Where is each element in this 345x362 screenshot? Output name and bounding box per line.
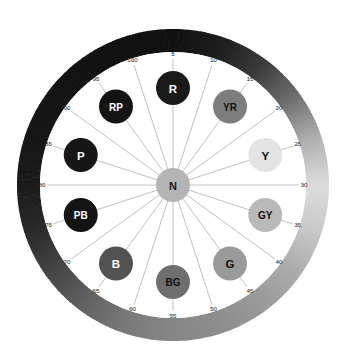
- hue-tick-label-75: 75: [45, 221, 52, 228]
- hue-node-bg[interactable]: BGBlue-Green: [156, 265, 190, 299]
- neutral-center-node: NNeutral: [156, 168, 190, 202]
- hue-node-yr[interactable]: YRYellow-Red: [213, 90, 247, 124]
- hue-tick-label-60: 60: [129, 305, 136, 312]
- hue-tick-label-65: 65: [93, 287, 100, 294]
- hue-tick-label-45: 45: [247, 287, 254, 294]
- hue-node-label-bg: BG: [166, 277, 181, 288]
- hue-node-label-p: P: [77, 150, 85, 162]
- hue-node-label-rp: RP: [109, 102, 123, 113]
- center-node-n[interactable]: NNeutral: [156, 168, 190, 202]
- hue-node-label-pb: PB: [74, 210, 88, 221]
- hue-node-y[interactable]: YYellow: [248, 138, 282, 172]
- hue-node-label-b: B: [112, 258, 120, 270]
- hue-node-r[interactable]: RRed: [156, 71, 190, 105]
- hue-tick-label-90: 90: [64, 104, 71, 111]
- hue-tick-label-15: 15: [247, 75, 254, 82]
- hue-node-label-y: Y: [261, 150, 269, 162]
- hue-wheel-svg: 5101520253035404550556065707580859095100…: [0, 0, 345, 362]
- hue-tick-label-80: 80: [39, 181, 46, 188]
- hue-node-label-r: R: [169, 83, 178, 95]
- hue-tick-label-70: 70: [64, 258, 71, 265]
- hue-node-p[interactable]: PPurple: [64, 138, 98, 172]
- hue-tick-label-25: 25: [294, 140, 301, 147]
- hue-tick-label-5: 5: [171, 50, 175, 57]
- hue-tick-label-20: 20: [276, 104, 283, 111]
- hue-tick-label-35: 35: [294, 221, 301, 228]
- hue-tick-label-95: 95: [93, 75, 100, 82]
- hue-tick-label-50: 50: [210, 305, 217, 312]
- munsell-hue-circle-figure: 5101520253035404550556065707580859095100…: [0, 0, 345, 362]
- hue-node-label-g: G: [226, 258, 235, 270]
- hue-node-label-gy: GY: [258, 210, 273, 221]
- center-node-label: N: [169, 180, 177, 192]
- hue-tick-label-100: 100: [127, 56, 138, 63]
- hue-tick-label-30: 30: [301, 181, 308, 188]
- hue-node-g[interactable]: GGreen: [213, 246, 247, 280]
- hue-tick-label-85: 85: [45, 140, 52, 147]
- hue-node-rp[interactable]: RPRed-Purple: [99, 90, 133, 124]
- hue-tick-label-55: 55: [170, 312, 177, 319]
- hue-node-pb[interactable]: PBPurple-Blue: [64, 198, 98, 232]
- hue-tick-label-40: 40: [276, 258, 283, 265]
- hue-tick-label-10: 10: [210, 56, 217, 63]
- hue-node-label-yr: YR: [223, 102, 238, 113]
- hue-node-gy[interactable]: GYGreen-Yellow: [248, 198, 282, 232]
- hue-node-b[interactable]: BBlue: [99, 246, 133, 280]
